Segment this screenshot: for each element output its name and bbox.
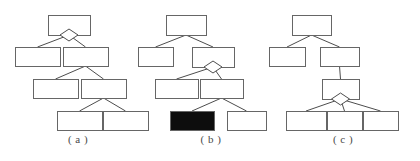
panel-a-edges: [38, 35, 126, 111]
node-box[interactable]: [104, 112, 149, 131]
tree-node[interactable]: [201, 80, 244, 99]
node-box[interactable]: [34, 80, 79, 99]
tree-node[interactable]: [287, 112, 327, 131]
panel-c-caption: ( c ): [333, 133, 353, 145]
node-box[interactable]: [58, 112, 103, 131]
tree-edge: [156, 35, 187, 47]
tree-node[interactable]: [328, 112, 363, 131]
tree-edge: [340, 66, 341, 79]
tree-node[interactable]: [193, 48, 235, 74]
node-box[interactable]: [156, 80, 199, 99]
panel-a-caption: ( a ): [68, 133, 88, 145]
node-box[interactable]: [328, 112, 363, 131]
node-box[interactable]: [16, 48, 61, 67]
tree-node[interactable]: [58, 112, 103, 131]
tree-node[interactable]: [156, 80, 199, 99]
tree-node[interactable]: [270, 48, 306, 67]
panel-a: [16, 16, 149, 131]
panel-b: [139, 16, 267, 131]
node-box[interactable]: [364, 112, 399, 131]
tree-node[interactable]: [321, 48, 360, 67]
node-box[interactable]: [139, 48, 174, 67]
tree-edge: [80, 98, 104, 111]
tree-node[interactable]: [82, 80, 127, 99]
tree-node[interactable]: [167, 16, 207, 36]
node-box[interactable]: [201, 80, 244, 99]
tree-edge: [104, 98, 126, 111]
tree-node[interactable]: [49, 16, 91, 42]
tree-edge: [287, 35, 312, 47]
tree-edge: [186, 35, 213, 47]
tree-edge: [192, 98, 222, 111]
panel-c: [270, 16, 399, 131]
tree-node[interactable]: [293, 16, 332, 36]
tree-edge: [222, 98, 247, 111]
tree-node[interactable]: [139, 48, 174, 67]
panel-b-edges: [156, 35, 247, 111]
tree-edge: [86, 66, 104, 79]
tree-node[interactable]: [104, 112, 149, 131]
tree-node[interactable]: [228, 112, 267, 131]
node-box[interactable]: [293, 16, 332, 36]
node-box[interactable]: [321, 48, 360, 67]
node-box[interactable]: [287, 112, 327, 131]
tree-node[interactable]: [16, 48, 61, 67]
node-box[interactable]: [167, 16, 207, 36]
node-box[interactable]: [82, 80, 127, 99]
panel-b-caption: ( b ): [201, 133, 222, 145]
node-box[interactable]: [171, 112, 215, 131]
tree-node[interactable]: [323, 80, 360, 106]
tree-node[interactable]: [364, 112, 399, 131]
node-box[interactable]: [270, 48, 306, 67]
tree-node-highlighted[interactable]: [171, 112, 215, 131]
node-box[interactable]: [228, 112, 267, 131]
tree-edge: [312, 35, 340, 47]
node-box[interactable]: [64, 48, 109, 67]
tree-edge: [56, 66, 86, 79]
tree-node[interactable]: [34, 80, 79, 99]
tree-node[interactable]: [64, 48, 109, 67]
tree-diagram-figure: ( a )( b )( c ): [0, 0, 420, 161]
